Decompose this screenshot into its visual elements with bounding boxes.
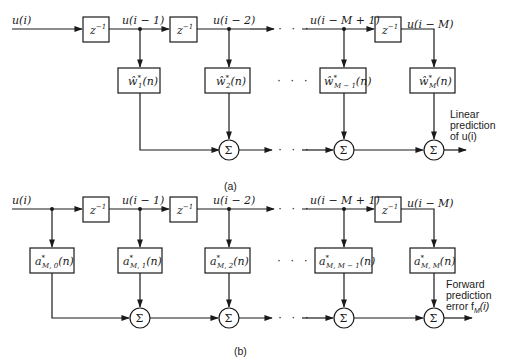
- weight-label-a4: ŵ*M(n): [419, 74, 452, 90]
- weight-label-a2: ŵ*2(n): [216, 74, 246, 90]
- ellipsis-b-top: · · ·: [278, 201, 312, 215]
- weight-label-a1: ŵ*1(n): [128, 74, 158, 90]
- signal-label-a-d2: u(i − 2): [213, 14, 255, 27]
- signal-label-b-d2: u(i − 2): [213, 194, 255, 207]
- sum-symbol-b2: Σ: [225, 312, 233, 325]
- sum-symbol-a2: Σ: [340, 144, 348, 157]
- sum-symbol-a1: Σ: [225, 144, 233, 157]
- ellipsis-a-bottom: · · ·: [278, 142, 312, 156]
- ellipsis-a-top: · · ·: [278, 21, 312, 35]
- signal-label-a-dM1: u(i − M + 1): [310, 14, 380, 27]
- output-label-b-line3: error fM(i): [446, 300, 489, 314]
- line-a4: [401, 29, 434, 67]
- ellipsis-b-mid: · · ·: [277, 253, 311, 267]
- sum-symbol-b3: Σ: [340, 312, 348, 325]
- signal-label-b-dM1: u(i − M + 1): [310, 194, 380, 207]
- diagram-b: · · · z−1 z−1 z−1 u(i) u(i − 1) u(i − 2)…: [12, 194, 492, 357]
- signal-label-b-dM: u(i − M): [407, 197, 454, 210]
- signal-label-a-d1: u(i − 1): [122, 14, 164, 27]
- line-b4: [401, 209, 434, 247]
- ellipsis-a-mid: · · ·: [277, 73, 311, 87]
- sum-symbol-b1: Σ: [136, 312, 144, 325]
- sum-symbol-a3: Σ: [430, 144, 438, 157]
- signal-label-a-input: u(i): [12, 14, 31, 27]
- output-label-a-line3: of u(i): [450, 130, 477, 142]
- caption-a: (a): [224, 180, 237, 192]
- wire-b0: [52, 273, 129, 318]
- caption-b: (b): [234, 345, 247, 357]
- signal-label-a-dM: u(i − M): [407, 18, 454, 31]
- diagram-a: · · · z−1 z−1 z−1 u(i) u(i − 1) u(i − 2)…: [12, 14, 496, 192]
- signal-label-b-d1: u(i − 1): [122, 194, 164, 207]
- wire-a1: [140, 93, 219, 150]
- signal-label-b-input: u(i): [12, 194, 31, 207]
- ellipsis-b-bottom: · · ·: [278, 310, 312, 324]
- transversal-filter-diagrams: · · · z−1 z−1 z−1 u(i) u(i − 1) u(i − 2)…: [0, 0, 509, 364]
- sum-symbol-b4: Σ: [430, 312, 438, 325]
